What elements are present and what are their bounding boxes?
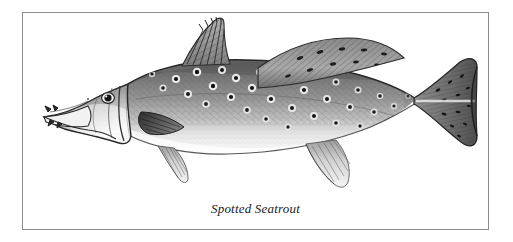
plate-caption: Spotted Seatrout [22,201,489,216]
plate-border [22,12,489,230]
illustration-plate: Spotted Seatrout [0,0,513,242]
